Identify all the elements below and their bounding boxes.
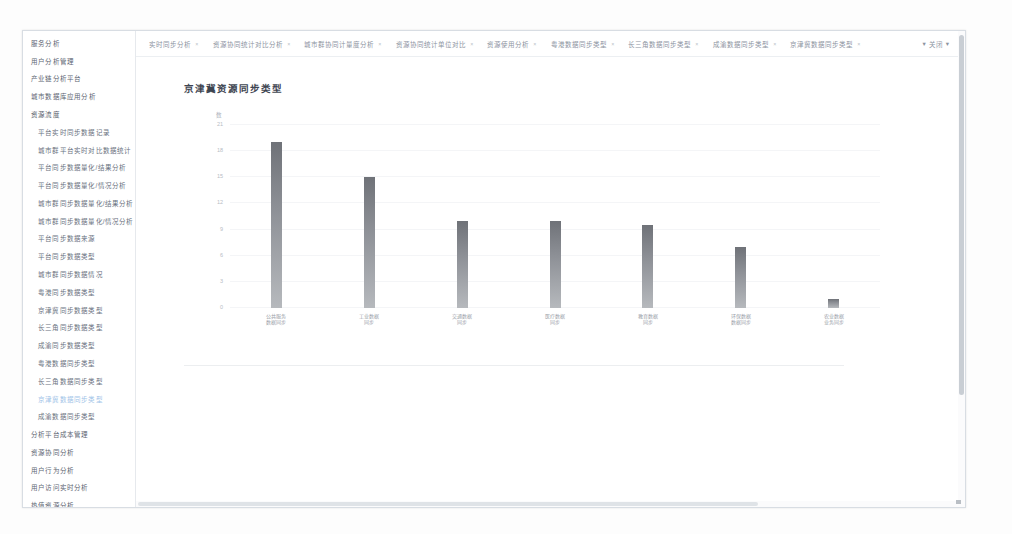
tab-label: 资源协同统计对比分析	[213, 39, 283, 49]
bar-slot-6: 农业数据 业务同步	[787, 125, 880, 308]
close-icon[interactable]: ×	[857, 41, 860, 46]
close-all-tabs-button[interactable]: ▾ 关闭 ▾	[922, 39, 949, 49]
close-icon[interactable]: ×	[773, 41, 776, 46]
content-area: 实时同步分析×资源协同统计对比分析×城市群协同计量度分析×资源协同统计单位对比×…	[136, 31, 965, 507]
bar-slot-2: 交通数据 同步	[416, 125, 509, 308]
sidebar-item-8[interactable]: 平台同步数据量化/情况分析	[23, 177, 135, 195]
y-axis-tick-4: 12	[217, 199, 223, 205]
sidebar-item-label: 长三角同步数据类型	[38, 324, 103, 331]
sidebar-item-label: 用户行为分析	[31, 467, 74, 474]
sidebar-item-24[interactable]: 用户行为分析	[23, 462, 135, 480]
sidebar-item-20[interactable]: 京津冀数据同步类型	[23, 391, 135, 409]
bar-4[interactable]	[642, 225, 653, 308]
sidebar-item-3[interactable]: 城市数据库应用分析	[23, 88, 135, 106]
sidebar-item-23[interactable]: 资源协同分析	[23, 444, 135, 462]
chevron-down-icon: ▾	[922, 40, 925, 48]
sidebar-item-label: 资源流度	[31, 111, 60, 118]
x-axis-label-4: 教育数据 同步	[628, 313, 668, 325]
tab-bar[interactable]: 实时同步分析×资源协同统计对比分析×城市群协同计量度分析×资源协同统计单位对比×…	[136, 31, 965, 57]
x-axis-label-1: 工业数据 同步	[349, 313, 389, 325]
sidebar-item-9[interactable]: 城市群同步数据量化/结果分析	[23, 195, 135, 213]
sidebar-item-12[interactable]: 平台同步数据类型	[23, 248, 135, 266]
tab-label: 城市群协同计量度分析	[304, 39, 374, 49]
y-axis-tick-0: 0	[220, 304, 223, 310]
sidebar-item-6[interactable]: 城市群平台实时对比数据统计	[23, 142, 135, 160]
tab-3[interactable]: 资源协同统计单位对比×	[389, 36, 481, 52]
tab-label: 资源协同统计单位对比	[396, 39, 466, 49]
bar-5[interactable]	[735, 247, 746, 308]
sidebar-item-label: 产业链分析平台	[31, 75, 81, 82]
tab-7[interactable]: 成渝数据同步类型×	[706, 36, 784, 52]
sidebar-item-14[interactable]: 粤港同步数据类型	[23, 284, 135, 302]
horizontal-scrollbar-thumb[interactable]	[138, 502, 758, 506]
tab-6[interactable]: 长三角数据同步类型×	[621, 36, 706, 52]
tab-5[interactable]: 粤港数据同步类型×	[544, 36, 622, 52]
sidebar-item-25[interactable]: 用户访问实时分析	[23, 480, 135, 498]
plot-area: 036912151821 公共服务 数据同步工业数据 同步交通数据 同步医疗数据…	[230, 125, 880, 308]
close-icon[interactable]: ×	[695, 41, 698, 46]
sidebar-item-22[interactable]: 分析平台成本管理	[23, 426, 135, 444]
tab-2[interactable]: 城市群协同计量度分析×	[297, 36, 389, 52]
tab-label: 成渝数据同步类型	[713, 39, 769, 49]
bar-2[interactable]	[457, 221, 468, 308]
y-axis-tick-7: 21	[217, 121, 223, 127]
sidebar-item-label: 京津冀数据同步类型	[38, 396, 103, 403]
tab-4[interactable]: 资源使用分析×	[480, 36, 544, 52]
sidebar-item-label: 城市群平台实时对比数据统计	[38, 147, 132, 154]
bar-1[interactable]	[364, 177, 375, 308]
close-icon[interactable]: ×	[195, 41, 198, 46]
sidebar-item-11[interactable]: 平台同步数据来源	[23, 231, 135, 249]
sidebar-item-26[interactable]: 热值资源分析	[23, 497, 135, 507]
y-axis-unit-label: 数	[216, 111, 222, 119]
resize-corner	[956, 500, 961, 504]
sidebar-item-5[interactable]: 平台实时同步数据记录	[23, 124, 135, 142]
sidebar-item-4[interactable]: 资源流度	[23, 106, 135, 124]
y-axis-tick-3: 9	[220, 226, 223, 232]
close-icon[interactable]: ×	[533, 41, 536, 46]
close-icon[interactable]: ×	[611, 41, 614, 46]
x-axis-label-2: 交通数据 同步	[442, 313, 482, 325]
sidebar-item-7[interactable]: 平台同步数据量化/结果分析	[23, 159, 135, 177]
sidebar-item-label: 京津冀同步数据类型	[38, 307, 103, 314]
sidebar-item-18[interactable]: 粤港数据同步类型	[23, 355, 135, 373]
close-icon[interactable]: ×	[378, 41, 381, 46]
sidebar-item-label: 平台同步数据量化/结果分析	[38, 164, 126, 171]
y-axis-tick-1: 3	[220, 278, 223, 284]
sidebar-item-label: 服务分析	[31, 40, 60, 47]
sidebar-item-label: 用户访问实时分析	[31, 484, 89, 491]
vertical-scrollbar[interactable]	[958, 31, 965, 507]
sidebar-item-19[interactable]: 长三角数据同步类型	[23, 373, 135, 391]
bar-slot-4: 教育数据 同步	[601, 125, 694, 308]
tab-8[interactable]: 京津冀数据同步类型×	[783, 36, 868, 52]
chevron-down-icon-2: ▾	[946, 40, 949, 48]
bar-3[interactable]	[550, 221, 561, 308]
sidebar-item-15[interactable]: 京津冀同步数据类型	[23, 302, 135, 320]
section-divider	[184, 365, 844, 366]
sidebar-item-label: 用户分析管理	[31, 58, 74, 65]
x-axis-label-3: 医疗数据 同步	[535, 313, 575, 325]
tab-1[interactable]: 资源协同统计对比分析×	[206, 36, 298, 52]
bar-0[interactable]	[271, 142, 282, 308]
sidebar-item-16[interactable]: 长三角同步数据类型	[23, 320, 135, 338]
sidebar-item-0[interactable]: 服务分析	[23, 35, 135, 53]
sidebar-item-label: 分析平台成本管理	[31, 431, 89, 438]
sidebar-item-label: 成渝数据同步类型	[38, 413, 96, 420]
tab-0[interactable]: 实时同步分析×	[142, 36, 206, 52]
sidebar-item-10[interactable]: 城市群同步数据量化/情况分析	[23, 213, 135, 231]
sidebar-item-1[interactable]: 用户分析管理	[23, 53, 135, 71]
sidebar-item-2[interactable]: 产业链分析平台	[23, 71, 135, 89]
vertical-scrollbar-thumb[interactable]	[959, 35, 964, 395]
bar-slot-3: 医疗数据 同步	[509, 125, 602, 308]
tab-label: 资源使用分析	[487, 39, 529, 49]
close-icon[interactable]: ×	[287, 41, 290, 46]
sidebar-item-label: 平台同步数据来源	[38, 235, 96, 242]
sidebar-item-13[interactable]: 城市群同步数据情况	[23, 266, 135, 284]
sidebar-item-21[interactable]: 成渝数据同步类型	[23, 408, 135, 426]
bar-6[interactable]	[828, 299, 839, 308]
y-axis-tick-6: 18	[217, 147, 223, 153]
close-icon[interactable]: ×	[470, 41, 473, 46]
horizontal-scrollbar[interactable]	[136, 501, 965, 507]
sidebar-navigation[interactable]: 服务分析用户分析管理产业链分析平台城市数据库应用分析资源流度平台实时同步数据记录…	[23, 31, 136, 507]
sidebar-item-17[interactable]: 成渝同步数据类型	[23, 337, 135, 355]
tab-list: 实时同步分析×资源协同统计对比分析×城市群协同计量度分析×资源协同统计单位对比×…	[142, 36, 922, 52]
